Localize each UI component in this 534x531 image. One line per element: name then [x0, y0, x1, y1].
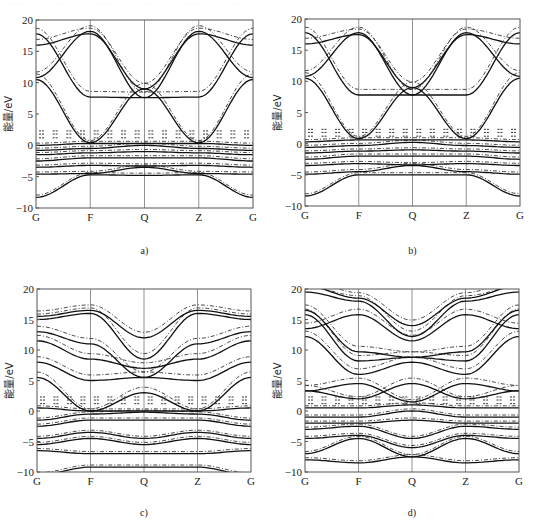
y-tick-label: 15 — [22, 45, 34, 57]
x-tick-label-Q: Q — [141, 211, 149, 223]
y-tick-label: 0 — [28, 139, 34, 151]
y-tick-label: 20 — [22, 14, 34, 26]
y-tick-label: 10 — [23, 344, 35, 356]
y-tick-label: −10 — [285, 466, 303, 478]
y-tick-label: −10 — [285, 200, 303, 212]
x-tick-label-F: F — [355, 475, 361, 487]
y-tick-label: −5 — [21, 171, 33, 183]
x-tick-label-Q: Q — [140, 475, 148, 487]
y-tick-label: −5 — [290, 436, 302, 448]
x-tick-label-G: G — [247, 475, 255, 487]
x-tick-label-G: G — [516, 209, 524, 221]
x-tick-label-G: G — [515, 475, 523, 487]
panel-caption-d: d) — [408, 507, 416, 519]
y-tick-label: 0 — [29, 405, 35, 417]
x-tick-label-G: G — [301, 475, 309, 487]
y-tick-label: 20 — [291, 283, 303, 295]
y-tick-label: −10 — [17, 466, 35, 478]
x-tick-label-F: F — [356, 209, 362, 221]
panel-caption-c: c) — [140, 507, 148, 519]
y-tick-label: −5 — [290, 169, 302, 181]
x-tick-label-F: F — [87, 475, 93, 487]
y-tick-label: 15 — [291, 44, 303, 56]
x-tick-label-Z: Z — [463, 209, 470, 221]
x-tick-label-G: G — [33, 475, 41, 487]
panel-b: −10−505101520GFQZG能量/eVb) — [271, 13, 524, 257]
x-tick-label-G: G — [249, 211, 257, 223]
y-tick-label: 5 — [297, 375, 303, 387]
y-axis-label: 能量/eV — [271, 362, 283, 399]
y-tick-label: 0 — [297, 138, 303, 150]
x-tick-label-Q: Q — [409, 209, 417, 221]
x-tick-label-Z: Z — [195, 211, 202, 223]
x-tick-label-F: F — [87, 211, 93, 223]
y-tick-label: 20 — [23, 283, 35, 295]
y-tick-label: 0 — [297, 405, 303, 417]
y-tick-label: 20 — [291, 13, 303, 25]
y-tick-label: 5 — [297, 107, 303, 119]
x-tick-label-Z: Z — [194, 475, 201, 487]
panel-a: −10−505101520GFQZG能量/eVa) — [2, 14, 257, 257]
y-axis-label: 能量/eV — [271, 94, 283, 131]
y-tick-label: −5 — [22, 436, 34, 448]
panel-caption-b: b) — [408, 245, 416, 257]
y-tick-label: 10 — [291, 344, 303, 356]
y-axis-label: 能量/eV — [3, 362, 15, 399]
y-tick-label: 5 — [29, 375, 35, 387]
panel-c: −10−505101520GFQZG能量/eVc) — [3, 283, 255, 519]
x-tick-label-Z: Z — [462, 475, 469, 487]
x-tick-label-G: G — [301, 209, 309, 221]
y-tick-label: 15 — [291, 314, 303, 326]
x-tick-label-Q: Q — [408, 475, 416, 487]
y-tick-label: 5 — [28, 108, 34, 120]
x-tick-label-G: G — [32, 211, 40, 223]
y-tick-label: −10 — [16, 202, 34, 214]
y-tick-label: 10 — [22, 77, 34, 89]
band-structure-figure: −10−505101520GFQZG能量/eVa)−10−505101520GF… — [0, 0, 534, 531]
y-tick-label: 15 — [23, 314, 35, 326]
y-axis-label: 能量/eV — [2, 96, 14, 133]
panel-d: −10−505101520GFQZG能量/eVd) — [271, 281, 523, 520]
y-tick-label: 10 — [291, 75, 303, 87]
panel-caption-a: a) — [141, 245, 149, 257]
